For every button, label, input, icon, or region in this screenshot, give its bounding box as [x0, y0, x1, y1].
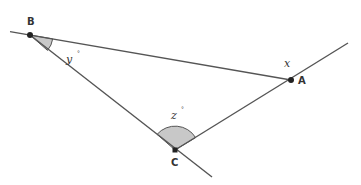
point-B — [27, 32, 33, 38]
label-B: B — [27, 16, 35, 27]
angle-degree-z: ° — [181, 105, 184, 112]
angle-label-y: y — [65, 53, 73, 66]
line-CA — [175, 43, 348, 150]
point-A — [288, 77, 294, 83]
line-BC — [30, 35, 212, 177]
angle-label-z: z — [170, 109, 177, 122]
label-A: A — [298, 75, 306, 86]
label-C: C — [171, 157, 178, 168]
angle-label-x: x — [284, 57, 291, 70]
angle-degree-y: ° — [77, 49, 80, 56]
point-C — [173, 148, 178, 153]
triangle-diagram: B A C y ° z ° x — [0, 0, 361, 185]
line-BA — [10, 32, 291, 80]
